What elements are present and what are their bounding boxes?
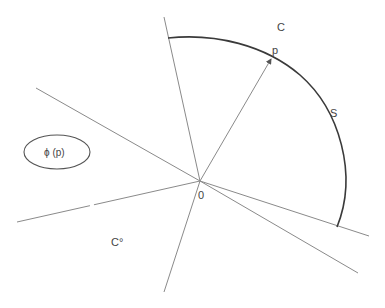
vector-p-arrow <box>200 59 271 181</box>
lower-left-ray <box>17 181 200 222</box>
phi-p-label: ϕ (p) <box>44 147 65 158</box>
ray-gap <box>90 205 94 206</box>
polar-boundary-left-ray <box>36 88 200 181</box>
cone-diagram: C p S 0 C° ϕ (p) <box>0 0 385 308</box>
polar-cone-label: C° <box>111 236 123 248</box>
origin-label: 0 <box>198 189 204 201</box>
arc-label: S <box>330 107 337 119</box>
point-label: p <box>272 44 278 56</box>
cone-boundary-upper-ray <box>164 17 200 181</box>
polar-boundary-right-ray <box>200 181 358 273</box>
cone-label: C <box>277 21 285 33</box>
lower-ray <box>164 181 200 292</box>
